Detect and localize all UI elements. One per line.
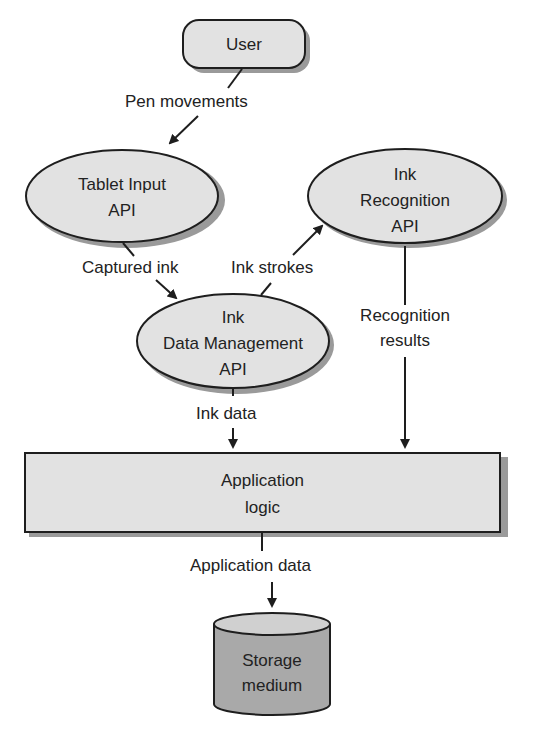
tablet-input-label: Tablet Input API [26,174,218,221]
edge-line [261,283,271,295]
edge-label-pen-movements: Pen movements [125,92,248,112]
edge-label-ink-strokes: Ink strokes [231,258,313,278]
ink-data-management-label: Ink Data Management API [137,307,329,380]
storage-medium-label: Storage medium [214,650,330,696]
user-label: User [183,34,305,55]
edge-label-application-data: Application data [190,556,311,576]
edge-arrow [170,116,198,143]
application-logic-label: Application logic [25,470,500,518]
edge-arrow [156,280,176,298]
ink-recognition-label: Ink Recognition API [308,164,502,237]
edge-label-recognition-results: Recognition results [345,306,465,351]
edge-label-captured-ink: Captured ink [82,258,178,278]
edge-label-ink-data: Ink data [196,404,257,424]
